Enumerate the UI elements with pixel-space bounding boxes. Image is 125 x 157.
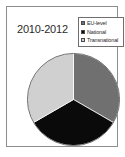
legend-swatch-eu-level xyxy=(81,21,85,25)
pie-chart xyxy=(26,52,121,147)
legend-label-eu-level: EU-level xyxy=(87,19,107,27)
legend-label-transnational: Transnational xyxy=(87,36,118,44)
chart-figure: 2010-2012 EU-level National Transnationa… xyxy=(0,0,125,157)
plot-frame: 2010-2012 EU-level National Transnationa… xyxy=(6,6,118,147)
legend-item-eu-level: EU-level xyxy=(80,19,122,27)
legend-label-national: National xyxy=(87,28,106,36)
legend-item-national: National xyxy=(80,28,122,36)
chart-legend: EU-level National Transnational xyxy=(78,17,124,47)
legend-swatch-transnational xyxy=(81,38,85,42)
chart-title: 2010-2012 xyxy=(17,21,77,37)
pie-svg xyxy=(26,52,121,147)
legend-swatch-national xyxy=(81,30,85,34)
legend-item-transnational: Transnational xyxy=(80,36,122,44)
